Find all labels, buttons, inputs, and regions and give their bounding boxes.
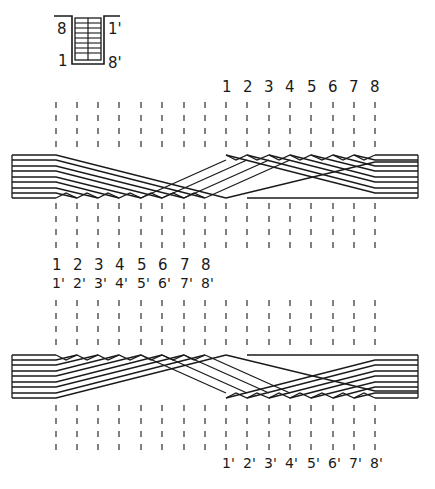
top-position-labels: 1 2 3 4 5 6 7 8	[222, 78, 380, 96]
svg-text:1: 1	[222, 78, 232, 96]
svg-text:1: 1	[52, 256, 62, 274]
svg-text:2': 2'	[243, 455, 256, 471]
svg-text:7: 7	[349, 78, 359, 96]
svg-text:7: 7	[180, 256, 190, 274]
svg-text:6: 6	[158, 256, 168, 274]
svg-text:6': 6'	[158, 275, 171, 291]
legend-label-bottom-left: 1	[58, 52, 68, 70]
svg-text:8': 8'	[370, 455, 383, 471]
legend-label-bottom-right: 8'	[108, 54, 122, 72]
top-strand-bundle	[12, 155, 418, 198]
middle-labels-primed: 1' 2' 3' 4' 5' 6' 7' 8'	[52, 275, 214, 291]
svg-text:2: 2	[73, 256, 83, 274]
svg-text:4': 4'	[285, 455, 298, 471]
svg-text:6: 6	[328, 78, 338, 96]
middle-labels-primary: 1 2 3 4 5 6 7 8	[52, 256, 211, 274]
svg-text:4: 4	[285, 78, 295, 96]
svg-text:8': 8'	[201, 275, 214, 291]
legend-label-top-left: 8	[57, 20, 67, 38]
legend-label-top-right: 1'	[108, 20, 122, 38]
svg-text:8: 8	[370, 78, 380, 96]
svg-text:5: 5	[307, 78, 317, 96]
svg-text:3': 3'	[94, 275, 107, 291]
diagram-canvas: 8 1' 1 8' 1 2 3 4 5 6 7 8	[0, 0, 435, 489]
svg-text:5': 5'	[307, 455, 320, 471]
svg-text:4': 4'	[115, 275, 128, 291]
svg-text:5: 5	[137, 256, 147, 274]
svg-text:5': 5'	[137, 275, 150, 291]
svg-text:7': 7'	[180, 275, 193, 291]
bottom-strand-bundle	[12, 355, 418, 398]
svg-text:2': 2'	[73, 275, 86, 291]
svg-text:6': 6'	[328, 455, 341, 471]
svg-text:3: 3	[94, 256, 104, 274]
svg-text:2: 2	[243, 78, 253, 96]
bottom-position-labels: 1' 2' 3' 4' 5' 6' 7' 8'	[222, 455, 383, 471]
svg-text:1': 1'	[52, 275, 65, 291]
svg-text:3': 3'	[264, 455, 277, 471]
svg-text:1': 1'	[222, 455, 235, 471]
svg-text:8: 8	[201, 256, 211, 274]
svg-text:7': 7'	[349, 455, 362, 471]
svg-text:3: 3	[264, 78, 274, 96]
svg-text:4: 4	[115, 256, 125, 274]
